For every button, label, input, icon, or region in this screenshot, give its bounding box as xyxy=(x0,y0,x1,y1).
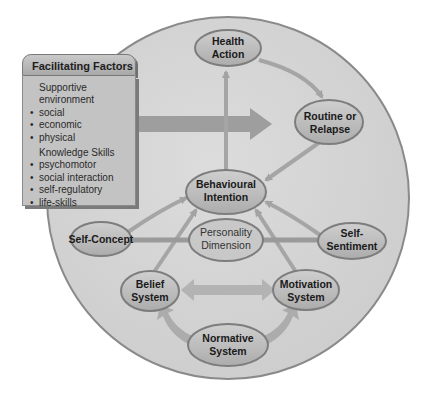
section-heading-knowledge-skills: Knowledge Skills xyxy=(29,147,131,159)
list-item: self-regulatory xyxy=(29,184,131,196)
label-routine-2: Relapse xyxy=(310,123,350,135)
facilitating-factors-title: Facilitating Factors xyxy=(22,54,136,76)
label-routine-1: Routine or xyxy=(304,110,357,122)
label-self-sentiment-1: Self- xyxy=(341,227,364,239)
list-item: social xyxy=(29,107,131,119)
label-intention-2: Intention xyxy=(204,191,248,203)
label-belief-2: System xyxy=(131,291,168,303)
label-motivation-1: Motivation xyxy=(280,278,333,290)
label-normative-1: Normative xyxy=(202,332,254,344)
health-behaviour-diagram: Health Action Routine or Relapse Behavio… xyxy=(0,0,434,393)
label-belief-1: Belief xyxy=(136,278,165,290)
label-self-concept: Self-Concept xyxy=(69,233,134,245)
list-item: life-skills xyxy=(29,197,131,209)
facilitating-factors-body: Supportive environment social economic p… xyxy=(22,76,136,206)
label-normative-2: System xyxy=(209,345,246,357)
label-health-action-1: Health xyxy=(212,35,244,47)
label-intention-1: Behavioural xyxy=(196,178,256,190)
list-item: physical xyxy=(29,132,131,144)
label-health-action-2: Action xyxy=(212,48,245,60)
list-item: social interaction xyxy=(29,172,131,184)
label-motivation-2: System xyxy=(287,291,324,303)
list-item: economic xyxy=(29,119,131,131)
list-item: psychomotor xyxy=(29,159,131,171)
section-heading-supportive-environment: Supportive environment xyxy=(29,82,131,107)
label-personality-1: Personality xyxy=(200,226,253,238)
label-self-sentiment-2: Sentiment xyxy=(327,240,378,252)
facilitating-factors-box: Facilitating Factors Supportive environm… xyxy=(22,54,136,206)
node-motivation-system xyxy=(273,270,339,310)
node-routine-relapse xyxy=(295,100,363,144)
label-personality-2: Dimension xyxy=(201,239,251,251)
